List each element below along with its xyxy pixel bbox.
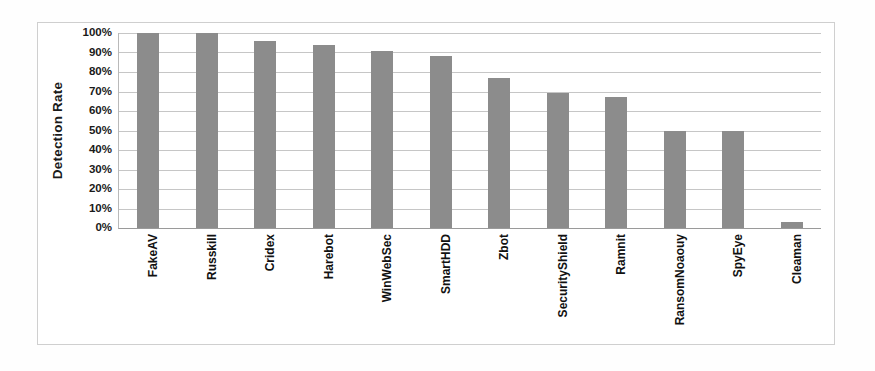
x-axis-category-label: RansomNoaouy [674, 234, 686, 325]
bar [196, 33, 218, 228]
bar [371, 51, 393, 228]
bar-slot [295, 33, 354, 228]
bar-slot [704, 33, 763, 228]
y-axis-tick-label: 40% [72, 144, 112, 156]
bar-slot [178, 33, 237, 228]
y-axis-tick-label: 60% [72, 105, 112, 117]
y-axis-tick-label: 30% [72, 164, 112, 176]
x-axis-category-label: SpyEye [732, 234, 744, 277]
bar-slot [353, 33, 412, 228]
x-axis-category-label: Harebot [323, 234, 335, 279]
x-axis-label-slot: Zbot [469, 230, 528, 340]
bar-slot [529, 33, 588, 228]
bar-slot [646, 33, 705, 228]
x-axis-label-slot: WinWebSec [352, 230, 411, 340]
x-axis-category-label: Cridex [264, 234, 276, 271]
bar-series [119, 33, 821, 228]
x-axis-category-label: WinWebSec [381, 234, 393, 302]
x-axis-label-slot: Cridex [235, 230, 294, 340]
y-axis-tick-label: 70% [72, 86, 112, 98]
bar [664, 131, 686, 229]
bar-slot [412, 33, 471, 228]
x-axis-label-slot: SmartHDD [411, 230, 470, 340]
bar [313, 45, 335, 228]
x-axis-category-labels: FakeAVRusskillCridexHarebotWinWebSecSmar… [118, 230, 820, 340]
y-axis-tick-label: 100% [72, 27, 112, 39]
x-axis-label-slot: Ramnit [586, 230, 645, 340]
y-axis-tick-label: 50% [72, 125, 112, 137]
x-axis-category-label: SecurityShield [557, 234, 569, 317]
plot-area [118, 33, 821, 229]
x-axis-category-label: FakeAV [147, 234, 159, 277]
x-axis-label-slot: SecurityShield [528, 230, 587, 340]
x-axis-label-slot: Russkill [177, 230, 236, 340]
y-axis-tick-label: 10% [72, 203, 112, 215]
y-axis-title-text: Detection Rate [51, 81, 66, 178]
y-axis-title: Detection Rate [44, 30, 72, 230]
x-axis-category-label: Zbot [498, 234, 510, 260]
y-axis-tick-label: 20% [72, 183, 112, 195]
x-axis-label-slot: Cleaman [762, 230, 821, 340]
bar-slot [119, 33, 178, 228]
bar [781, 222, 803, 228]
x-axis-label-slot: RansomNoaouy [645, 230, 704, 340]
bar [547, 93, 569, 228]
x-axis-category-label: Russkill [206, 234, 218, 280]
bar [488, 78, 510, 228]
bar [254, 41, 276, 228]
bar-slot [470, 33, 529, 228]
y-axis-tick-labels: 0%10%20%30%40%50%60%70%80%90%100% [72, 26, 112, 234]
x-axis-label-slot: FakeAV [118, 230, 177, 340]
bar [430, 56, 452, 228]
figure-root: Detection Rate 0%10%20%30%40%50%60%70%80… [0, 0, 875, 371]
x-axis-label-slot: SpyEye [703, 230, 762, 340]
bar [137, 33, 159, 228]
bar [722, 131, 744, 229]
y-axis-tick-label: 90% [72, 47, 112, 59]
x-axis-label-slot: Harebot [294, 230, 353, 340]
y-axis-tick-label: 80% [72, 66, 112, 78]
x-axis-category-label: Cleaman [791, 234, 803, 284]
bar-slot [587, 33, 646, 228]
bar [605, 97, 627, 228]
x-axis-category-label: SmartHDD [440, 234, 452, 294]
bar-slot [763, 33, 822, 228]
y-axis-tick-label: 0% [72, 222, 112, 234]
x-axis-category-label: Ramnit [615, 234, 627, 275]
bar-slot [236, 33, 295, 228]
